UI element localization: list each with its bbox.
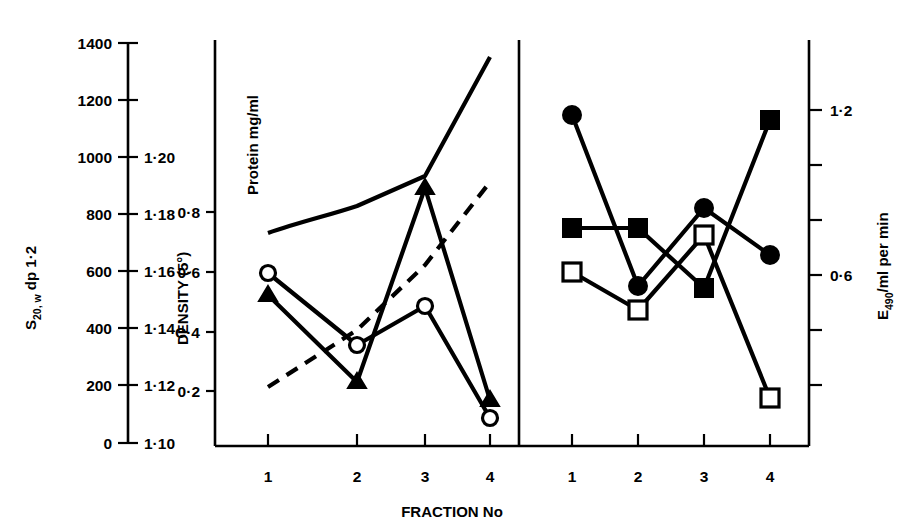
xtick-label: 3 bbox=[700, 468, 709, 485]
marker-triangle bbox=[259, 286, 277, 301]
chart-svg: 1400 1200 1000 800 600 400 200 0 1·20 1·… bbox=[0, 0, 904, 532]
marker-filled-circle bbox=[695, 199, 713, 217]
density-tick-labels: 1·20 1·18 1·16 1·14 1·12 1·10 bbox=[144, 149, 175, 452]
left-panel-xticks bbox=[268, 434, 490, 446]
figure-root: 1400 1200 1000 800 600 400 200 0 1·20 1·… bbox=[0, 0, 904, 532]
series-filled-squares-line bbox=[572, 120, 770, 288]
xtick-label: 1 bbox=[568, 468, 577, 485]
marker-filled-square bbox=[761, 111, 779, 129]
left-panel-xtick-labels: 1 2 3 4 bbox=[264, 468, 495, 485]
density-tick-label: 1·14 bbox=[144, 320, 175, 337]
xtick-label: 1 bbox=[264, 468, 273, 485]
s20w-tick-label: 400 bbox=[86, 320, 112, 337]
marker-filled-circle bbox=[629, 277, 647, 295]
marker-open-circle bbox=[261, 266, 276, 281]
s20w-tick-label: 600 bbox=[86, 263, 112, 280]
e490-axis-title-group: E490/ml per min bbox=[874, 212, 895, 320]
protein-tick-label: 0·8 bbox=[178, 204, 201, 221]
marker-filled-square bbox=[695, 279, 713, 297]
marker-open-circle bbox=[418, 299, 433, 314]
e490-tick-label: 1·2 bbox=[830, 102, 852, 119]
s20w-tick-label: 1400 bbox=[78, 35, 112, 52]
marker-open-square bbox=[563, 263, 581, 281]
marker-filled-circle bbox=[563, 106, 581, 124]
right-panel-data bbox=[563, 106, 779, 407]
right-panel-xticks bbox=[572, 434, 770, 446]
xtick-label: 4 bbox=[486, 468, 495, 485]
density-tick-label: 1·10 bbox=[144, 435, 175, 452]
marker-triangle bbox=[481, 391, 499, 406]
density-tick-label: 1·18 bbox=[144, 206, 175, 223]
series-triangles-line bbox=[268, 188, 490, 400]
marker-filled-circle bbox=[761, 246, 779, 264]
s20w-tick-label: 1200 bbox=[78, 92, 112, 109]
density-tick-label: 1·12 bbox=[144, 377, 175, 394]
s20w-tick-label: 200 bbox=[86, 377, 112, 394]
xtick-label: 2 bbox=[353, 468, 362, 485]
s20w-axis-title: S20, w dp 1·2 bbox=[22, 246, 43, 330]
protein-tick-label: 0·2 bbox=[178, 383, 200, 400]
marker-filled-square bbox=[563, 219, 581, 237]
density-tick-label: 1·20 bbox=[144, 149, 175, 166]
s20w-tick-label: 800 bbox=[86, 206, 112, 223]
marker-filled-square bbox=[629, 219, 647, 237]
s20w-tick-label: 1000 bbox=[78, 149, 112, 166]
x-axis-title: FRACTION No bbox=[401, 503, 503, 520]
marker-open-circle bbox=[483, 411, 498, 426]
e490-axis-ticks bbox=[809, 110, 822, 385]
marker-open-circle bbox=[350, 338, 365, 353]
e490-tick-label: 0·6 bbox=[830, 267, 853, 284]
marker-open-square bbox=[629, 301, 647, 319]
xtick-label: 3 bbox=[421, 468, 430, 485]
right-panel-xtick-labels: 1 2 3 4 bbox=[568, 468, 775, 485]
s20w-axis-title-group: S20, w dp 1·2 bbox=[22, 246, 43, 330]
marker-open-square bbox=[761, 389, 779, 407]
s20w-tick-labels: 1400 1200 1000 800 600 400 200 0 bbox=[78, 35, 112, 452]
e490-tick-labels: 1·2 0·6 bbox=[830, 102, 853, 284]
marker-triangle bbox=[416, 179, 434, 194]
marker-open-square bbox=[695, 226, 713, 244]
xtick-label: 4 bbox=[766, 468, 775, 485]
xtick-label: 2 bbox=[634, 468, 643, 485]
protein-axis-ticks bbox=[206, 212, 215, 391]
series-density-solid-line bbox=[268, 57, 490, 233]
protein-axis-title: Protein mg/ml bbox=[244, 95, 261, 195]
e490-axis-title: E490/ml per min bbox=[874, 212, 895, 320]
density-tick-label: 1·16 bbox=[144, 263, 175, 280]
s20w-tick-label: 0 bbox=[103, 435, 112, 452]
density-axis-title: DENSITY (5°) bbox=[174, 252, 191, 345]
left-panel-data bbox=[259, 57, 499, 426]
